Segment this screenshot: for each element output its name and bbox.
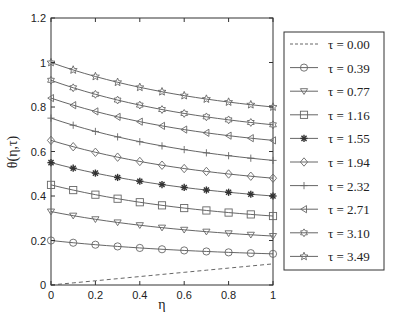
legend-label: τ = 3.10 — [328, 226, 370, 241]
legend-label: τ = 1.55 — [328, 131, 370, 146]
series-line — [51, 264, 273, 285]
y-tick-label: 0.8 — [31, 101, 46, 113]
series-line — [51, 185, 273, 216]
y-tick-label: 0.6 — [31, 146, 46, 158]
series-line — [51, 212, 273, 236]
plot-area — [47, 18, 277, 285]
series-line — [51, 241, 273, 254]
plot-frame — [51, 18, 273, 285]
y-tick-label: 0.4 — [31, 190, 46, 202]
x-tick-label: 0.8 — [221, 289, 236, 301]
legend-label: τ = 0.00 — [328, 37, 370, 52]
legend-label: τ = 0.77 — [328, 84, 370, 99]
series-0 — [51, 264, 273, 285]
series-line — [51, 118, 273, 160]
legend-label: τ = 2.71 — [328, 202, 370, 217]
y-tick-label: 0.2 — [31, 235, 46, 247]
y-tick-label: 1 — [40, 57, 46, 69]
x-tick-label: 0.4 — [132, 289, 147, 301]
x-tick-label: 0.2 — [88, 289, 103, 301]
series-7 — [48, 95, 276, 144]
y-axis: 00.20.40.60.811.2 — [31, 12, 273, 291]
y-tick-label: 0 — [40, 279, 46, 291]
x-tick-label: 0 — [48, 289, 54, 301]
chart: 00.20.40.60.81 00.20.40.60.811.2 η θ(η,τ… — [0, 0, 393, 326]
x-axis-label: η — [158, 297, 165, 312]
legend: τ = 0.00τ = 0.39τ = 0.77τ = 1.16τ = 1.55… — [284, 32, 384, 270]
legend-label: τ = 0.39 — [328, 61, 370, 76]
x-tick-label: 1 — [270, 289, 276, 301]
y-tick-label: 1.2 — [31, 12, 46, 24]
legend-label: τ = 2.32 — [328, 179, 370, 194]
legend-label: τ = 3.49 — [328, 249, 370, 264]
series-9 — [47, 58, 277, 110]
legend-label: τ = 1.94 — [328, 155, 370, 170]
legend-label: τ = 1.16 — [328, 108, 370, 123]
x-axis: 00.20.40.60.81 — [48, 18, 276, 301]
series-line — [51, 163, 273, 196]
series-1 — [47, 237, 276, 258]
y-axis-label: θ(η,τ) — [5, 135, 21, 168]
series-8 — [48, 76, 277, 128]
series-line — [51, 63, 273, 108]
x-tick-label: 0.6 — [177, 289, 192, 301]
series-line — [51, 98, 273, 140]
